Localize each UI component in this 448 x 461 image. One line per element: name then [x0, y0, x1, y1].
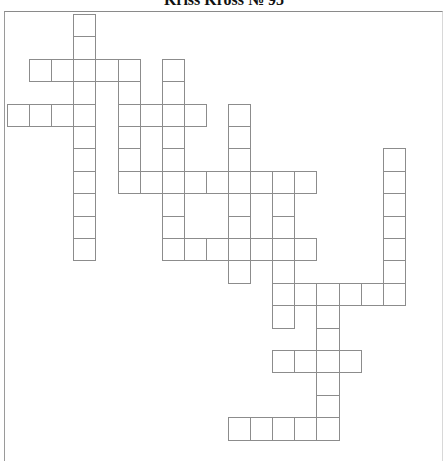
- grid-cell[interactable]: [250, 171, 273, 194]
- grid-cell[interactable]: [73, 238, 96, 261]
- grid-cell[interactable]: [316, 372, 340, 396]
- grid-cell[interactable]: [140, 104, 163, 127]
- grid-cell[interactable]: [162, 81, 185, 105]
- grid-cell[interactable]: [316, 350, 340, 373]
- grid-cell[interactable]: [184, 104, 207, 127]
- grid-cell[interactable]: [316, 283, 340, 306]
- grid-cell[interactable]: [228, 193, 251, 217]
- grid-cell[interactable]: [228, 104, 251, 127]
- grid-cell[interactable]: [118, 126, 141, 149]
- grid-cell[interactable]: [272, 305, 295, 329]
- grid-cell[interactable]: [118, 59, 141, 82]
- grid-cell[interactable]: [228, 148, 251, 172]
- grid-cell[interactable]: [294, 417, 317, 441]
- grid-cell[interactable]: [29, 104, 52, 127]
- grid-cell[interactable]: [73, 36, 96, 60]
- grid-cell[interactable]: [294, 171, 317, 194]
- grid-cell[interactable]: [206, 238, 229, 261]
- grid-cell[interactable]: [316, 395, 340, 418]
- grid-cell[interactable]: [383, 238, 406, 261]
- grid-cell[interactable]: [272, 350, 295, 373]
- grid-cell[interactable]: [73, 216, 96, 239]
- grid-cell[interactable]: [294, 283, 317, 306]
- grid-cell[interactable]: [162, 216, 185, 239]
- grid-cell[interactable]: [73, 171, 96, 194]
- grid-cell[interactable]: [383, 260, 406, 284]
- grid-cell[interactable]: [206, 171, 229, 194]
- grid-cell[interactable]: [51, 104, 74, 127]
- grid-cell[interactable]: [361, 283, 384, 306]
- grid-cell[interactable]: [272, 193, 295, 217]
- grid-cell[interactable]: [73, 126, 96, 149]
- grid-cell[interactable]: [339, 283, 362, 306]
- grid-cell[interactable]: [162, 104, 185, 127]
- grid-cell[interactable]: [118, 148, 141, 172]
- grid-cell[interactable]: [73, 193, 96, 217]
- grid-cell[interactable]: [95, 59, 119, 82]
- grid-cell[interactable]: [162, 126, 185, 149]
- grid-cell[interactable]: [272, 171, 295, 194]
- grid-cell[interactable]: [7, 104, 30, 127]
- grid-cell[interactable]: [29, 59, 52, 82]
- grid-cell[interactable]: [316, 328, 340, 351]
- grid-cell[interactable]: [383, 171, 406, 194]
- grid-cell[interactable]: [250, 238, 273, 261]
- grid-cell[interactable]: [73, 104, 96, 127]
- grid-cell[interactable]: [162, 238, 185, 261]
- grid-cell[interactable]: [383, 216, 406, 239]
- grid-cell[interactable]: [316, 417, 340, 441]
- grid-cell[interactable]: [383, 193, 406, 217]
- grid-cell[interactable]: [162, 59, 185, 82]
- grid-cell[interactable]: [272, 260, 295, 284]
- grid-cell[interactable]: [184, 171, 207, 194]
- grid-cell[interactable]: [228, 260, 251, 284]
- grid-cell[interactable]: [294, 238, 317, 261]
- grid-cell[interactable]: [250, 417, 273, 441]
- grid-cell[interactable]: [118, 171, 141, 194]
- grid-cell[interactable]: [228, 238, 251, 261]
- grid-cell[interactable]: [228, 171, 251, 194]
- grid-cell[interactable]: [339, 350, 362, 373]
- grid-cell[interactable]: [51, 59, 74, 82]
- grid-cell[interactable]: [184, 238, 207, 261]
- grid-cell[interactable]: [316, 305, 340, 329]
- grid-cell[interactable]: [162, 148, 185, 172]
- grid-cell[interactable]: [228, 216, 251, 239]
- grid-cell[interactable]: [73, 14, 96, 37]
- grid-cell[interactable]: [272, 417, 295, 441]
- grid-cell[interactable]: [228, 126, 251, 149]
- grid-cell[interactable]: [162, 171, 185, 194]
- grid-cell[interactable]: [272, 216, 295, 239]
- grid-cell[interactable]: [118, 104, 141, 127]
- grid-cell[interactable]: [73, 81, 96, 105]
- grid-cell[interactable]: [383, 148, 406, 172]
- grid-cell[interactable]: [73, 148, 96, 172]
- grid-cell[interactable]: [383, 283, 406, 306]
- grid-cell[interactable]: [140, 171, 163, 194]
- grid-cell[interactable]: [162, 193, 185, 217]
- grid-cell[interactable]: [294, 350, 317, 373]
- grid-cell[interactable]: [272, 283, 295, 306]
- grid-cell[interactable]: [73, 59, 96, 82]
- grid-cell[interactable]: [272, 238, 295, 261]
- grid-cell[interactable]: [228, 417, 251, 441]
- grid-cell[interactable]: [118, 81, 141, 105]
